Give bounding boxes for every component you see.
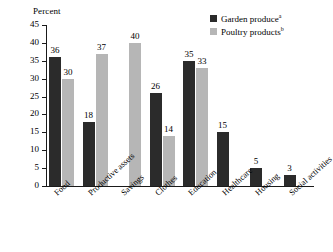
y-axis-tick-label: 20 <box>30 108 39 119</box>
bar-slot: 30 <box>62 25 74 186</box>
bar-slot: 14 <box>163 25 175 186</box>
x-axis-line <box>46 186 314 187</box>
chart-legend: Garden produceaPoultry productsb <box>210 13 284 37</box>
bar-value-label: 15 <box>218 120 227 131</box>
legend-item-label: Garden producea <box>221 14 281 24</box>
bar-slot: 37 <box>96 25 108 186</box>
x-axis-label-cell: Healthcare <box>214 188 248 252</box>
legend-swatch-icon <box>210 15 217 22</box>
bar-slot <box>230 25 242 186</box>
bar: 26 <box>150 93 162 186</box>
bar-value-label: 30 <box>64 67 73 78</box>
bar-value-label: 36 <box>51 45 60 56</box>
bar-group: 3533 <box>180 25 214 186</box>
y-axis-tick-label: 30 <box>30 73 39 84</box>
bar-slot: 35 <box>183 25 195 186</box>
bar-groups: 3630183740261435331553 <box>46 25 314 186</box>
y-axis-tick-label: 5 <box>35 162 40 173</box>
bar: 35 <box>183 61 195 186</box>
y-axis-tick-label: 25 <box>30 91 39 102</box>
bar: 15 <box>217 132 229 186</box>
bar: 18 <box>83 122 95 186</box>
legend-swatch-icon <box>210 28 217 35</box>
bar-group: 1837 <box>80 25 114 186</box>
y-axis-tick-label: 45 <box>30 19 39 30</box>
y-axis-tick-label: 0 <box>35 180 40 191</box>
legend-item-label: Poultry productsb <box>221 27 284 37</box>
bar: 40 <box>129 43 141 186</box>
legend-item[interactable]: Poultry productsb <box>210 26 284 37</box>
bar-slot: 36 <box>49 25 61 186</box>
bar-value-label: 3 <box>287 163 292 174</box>
bar-value-label: 37 <box>97 42 106 53</box>
bar-slot: 3 <box>284 25 296 186</box>
bar: 33 <box>196 68 208 186</box>
bar: 36 <box>49 57 61 186</box>
bar-group: 5 <box>247 25 281 186</box>
x-axis-label-cell: Social activities <box>281 188 315 252</box>
x-axis-label-cell: Savings <box>113 188 147 252</box>
bar-slot: 18 <box>83 25 95 186</box>
bar-value-label: 35 <box>185 49 194 60</box>
bar-slot: 33 <box>196 25 208 186</box>
bar-value-label: 26 <box>151 81 160 92</box>
bar-slot <box>263 25 275 186</box>
x-axis-label-cell: Housing <box>247 188 281 252</box>
bar-group: 3 <box>281 25 315 186</box>
x-axis-label-cell: Food <box>46 188 80 252</box>
bar: 30 <box>62 79 74 186</box>
bar-value-label: 40 <box>131 31 140 42</box>
y-axis-tick-label: 40 <box>30 37 39 48</box>
bar-slot: 15 <box>217 25 229 186</box>
y-axis-tick-mark <box>42 186 46 187</box>
bar-group: 3630 <box>46 25 80 186</box>
legend-item[interactable]: Garden producea <box>210 13 284 24</box>
bar-group: 2614 <box>147 25 181 186</box>
x-axis-label-cell: Clothes <box>147 188 181 252</box>
x-axis-label-cell: Productive assets <box>80 188 114 252</box>
y-axis-tick-label: 15 <box>30 126 39 137</box>
bar-value-label: 14 <box>164 124 173 135</box>
x-axis-labels: FoodProductive assetsSavingsClothesEduca… <box>46 188 314 252</box>
bar-group: 15 <box>214 25 248 186</box>
bar-slot: 26 <box>150 25 162 186</box>
bar: 37 <box>96 54 108 186</box>
bar-slot <box>297 25 309 186</box>
y-axis-title: Percent <box>33 6 61 16</box>
bar-value-label: 5 <box>254 156 259 167</box>
y-axis-tick-label: 35 <box>30 55 39 66</box>
y-axis-tick-label: 10 <box>30 144 39 155</box>
bar-value-label: 18 <box>84 110 93 121</box>
bar-value-label: 33 <box>198 56 207 67</box>
bar-slot: 5 <box>250 25 262 186</box>
x-axis-label-cell: Education <box>180 188 214 252</box>
